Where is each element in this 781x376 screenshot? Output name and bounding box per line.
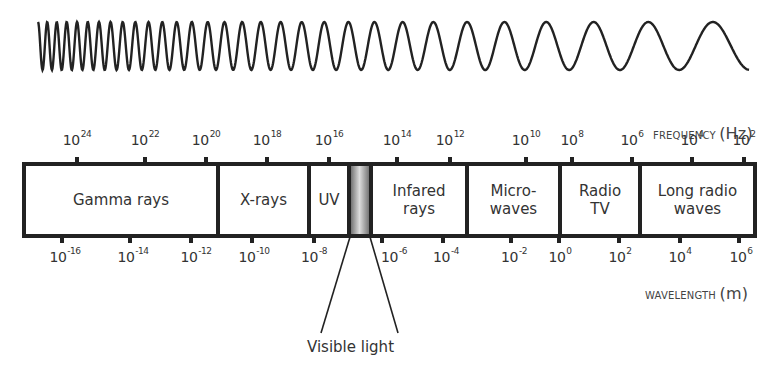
visible-light-label: Visible light <box>307 338 394 356</box>
wl-tick-label: 10-8 <box>301 249 327 265</box>
visible-light-band <box>349 166 370 234</box>
freq-tick-label: 1024 <box>63 132 91 148</box>
freq-tick-label: 1018 <box>253 132 281 148</box>
band-infrared: Infaredrays <box>373 166 465 234</box>
band-microwaves: Micro-waves <box>469 166 558 234</box>
wl-tick-label: 10-14 <box>117 249 148 265</box>
wl-tick-label: 106 <box>729 249 752 265</box>
band-radio-tv: RadioTV <box>562 166 638 234</box>
wave-icon <box>38 22 749 70</box>
wavelength-unit: (m) <box>719 284 748 303</box>
freq-tick-label: 1010 <box>512 132 540 148</box>
wl-tick-label: 10-6 <box>381 249 407 265</box>
freq-tick-label: 1022 <box>131 132 159 148</box>
wl-tick-label: 100 <box>548 249 571 265</box>
freq-tick-label: 1012 <box>436 132 464 148</box>
freq-tick-label: 108 <box>560 132 583 148</box>
wl-tick-label: 102 <box>608 249 631 265</box>
wl-tick-label: 10-4 <box>433 249 459 265</box>
band-gamma-rays: Gamma rays <box>26 166 216 234</box>
freq-tick-label: 1020 <box>192 132 220 148</box>
band-x-rays: X-rays <box>220 166 307 234</box>
freq-tick-label: 102 <box>732 132 755 148</box>
wavelength-axis-title: WAVELENGTH (m) <box>645 284 748 303</box>
wavelength-title-text: WAVELENGTH <box>645 290 716 301</box>
freq-tick-label: 104 <box>680 132 703 148</box>
wl-tick-label: 10-2 <box>501 249 527 265</box>
freq-tick-label: 1014 <box>383 132 411 148</box>
wl-tick-label: 10-16 <box>49 249 80 265</box>
freq-tick-label: 1016 <box>315 132 343 148</box>
wl-tick-label: 104 <box>668 249 691 265</box>
band-uv: UV <box>311 166 347 234</box>
freq-tick-label: 106 <box>620 132 643 148</box>
band-long-radio-waves: Long radiowaves <box>642 166 753 234</box>
wl-tick-label: 10-10 <box>238 249 269 265</box>
wl-tick-label: 10-12 <box>180 249 211 265</box>
